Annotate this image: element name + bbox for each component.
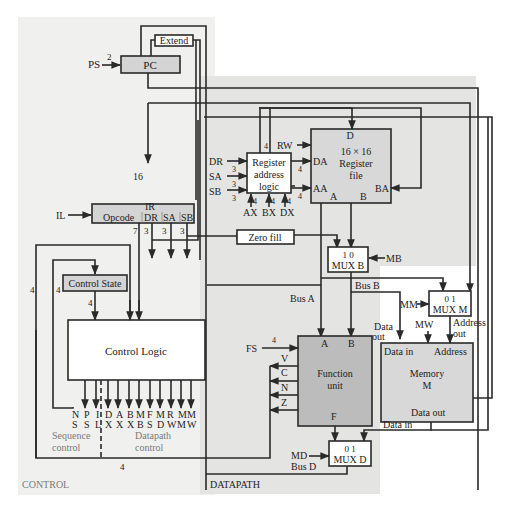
loop-width: 4 — [30, 285, 35, 295]
ps-signal-label: PS — [88, 58, 100, 70]
datapath-control-label-2: control — [135, 442, 164, 453]
mux-b-label: MUX B — [332, 260, 365, 271]
regfile-a-port: A — [330, 191, 338, 202]
address-out-label-2: out — [453, 328, 466, 339]
fu-b-port: B — [348, 338, 355, 349]
ax-label: AX — [243, 207, 258, 218]
aa-width: 4 — [298, 192, 302, 201]
ir-width: 16 — [133, 171, 143, 182]
regfile-d-port: D — [346, 130, 353, 141]
flag-n: N — [281, 382, 288, 393]
cs-out-width: 4 — [88, 298, 93, 308]
sequence-control-label-2: control — [52, 442, 81, 453]
ir-sa-field: SA — [163, 212, 177, 223]
ax-width: 4 — [253, 197, 257, 206]
regfile-line-3: file — [349, 170, 363, 181]
mb-label: MB — [386, 253, 402, 264]
ns-width: 4 — [56, 285, 61, 295]
mw-label: MW — [415, 319, 434, 330]
dr-input-label: DR — [209, 156, 223, 167]
sa-input-label: SA — [209, 171, 223, 182]
ir-label: IR — [145, 201, 155, 212]
mm-label: MM — [400, 299, 418, 310]
ral-line-3: logic — [259, 181, 280, 192]
datapath-region-label: DATAPATH — [210, 479, 260, 490]
dx-label: DX — [280, 207, 295, 218]
out-bot-m: M — [177, 419, 186, 430]
ral-line-1: Register — [252, 157, 286, 168]
dx-width: 4 — [287, 197, 291, 206]
regfile-b-port: B — [360, 191, 367, 202]
dr-out-width: 3 — [144, 226, 149, 236]
memory-address-port: Address — [434, 346, 467, 357]
out-bot-d: D — [157, 419, 164, 430]
regfile-da-port: DA — [313, 156, 328, 167]
data-out-label-2: out — [372, 331, 385, 342]
fs-width: 4 — [272, 336, 276, 345]
out-bot-l: L — [95, 419, 101, 430]
bus-b-label: Bus B — [355, 280, 380, 291]
out-bot-w: W — [167, 419, 177, 430]
control-state-label: Control State — [68, 278, 122, 289]
fu-label-1: Function — [317, 368, 353, 379]
bx-label: BX — [262, 207, 277, 218]
mux-m-inputs: 0 1 — [444, 294, 455, 304]
regfile-ba-port: BA — [375, 183, 390, 194]
datapath-control-label-1: Datapath — [135, 430, 171, 441]
memory-label-1: Memory — [410, 368, 444, 379]
out-bot-x: X — [105, 419, 113, 430]
memory-label-2: M — [423, 380, 432, 391]
mux-b-inputs: 1 0 — [342, 250, 354, 260]
address-out-label-1: Address — [453, 317, 486, 328]
mux-m-label: MUX M — [433, 304, 468, 315]
bx-width: 4 — [271, 197, 275, 206]
ps-width: 2 — [107, 52, 112, 62]
dr-width: 3 — [232, 165, 236, 174]
il-label: IL — [56, 210, 65, 221]
flag-z: Z — [281, 397, 287, 408]
sequence-control-label-1: Sequence — [52, 430, 91, 441]
fs-label: FS — [246, 343, 257, 354]
out-bot-b: B — [137, 419, 144, 430]
control-logic-label: Control Logic — [105, 345, 167, 357]
status-width: 4 — [120, 462, 125, 472]
flag-c: C — [281, 367, 288, 378]
sb-width: 3 — [232, 194, 236, 203]
memory-data-out-port: Data out — [411, 407, 445, 418]
out-bot-s2: S — [84, 419, 90, 430]
control-region-label: CONTROL — [22, 479, 69, 490]
out-bot-w2: W — [187, 419, 197, 430]
md-label: MD — [291, 450, 307, 461]
regfile-line-1: 16 × 16 — [341, 146, 372, 157]
datapath-fill-2 — [380, 76, 476, 266]
opcode-width: 7 — [133, 226, 138, 236]
fu-f-port: F — [331, 411, 337, 422]
out-bot-x3: X — [127, 419, 135, 430]
out-bot-s3: S — [147, 419, 153, 430]
bus-d-label: Bus D — [291, 461, 316, 472]
sa-width: 3 — [232, 180, 236, 189]
flag-v: V — [281, 353, 289, 364]
pc-label: PC — [143, 59, 156, 71]
d-width: 4 — [264, 142, 268, 151]
memory-data-in-port: Data in — [384, 346, 413, 357]
sa-out-width: 3 — [162, 226, 167, 236]
zero-fill-label: Zero fill — [248, 232, 281, 243]
rw-label: RW — [277, 140, 293, 151]
ir-opcode-field: Opcode — [103, 212, 135, 223]
da-width: 4 — [298, 165, 302, 174]
out-bot-x2: X — [116, 419, 124, 430]
sb-out-width: 3 — [180, 226, 185, 236]
ir-sb-field: SB — [181, 212, 194, 223]
ir-dr-field: DR — [144, 212, 158, 223]
fu-a-port: A — [321, 338, 329, 349]
ral-line-2: address — [254, 169, 284, 180]
sb-input-label: SB — [209, 186, 222, 197]
memory-data-in-label: Data in — [383, 419, 412, 430]
extend-label: Extend — [160, 35, 188, 46]
mux-d-inputs: 0 1 — [344, 444, 355, 454]
regfile-aa-port: AA — [313, 183, 328, 194]
cpu-block-diagram: Extend PC PS 2 Register address logic DR… — [0, 0, 508, 510]
bus-a-label: Bus A — [290, 293, 316, 304]
mux-d-label: MUX D — [333, 454, 366, 465]
